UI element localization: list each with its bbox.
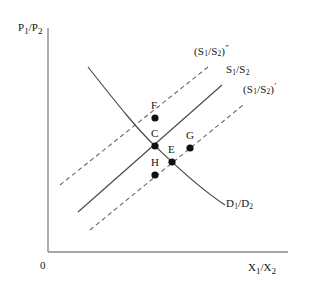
point-F-marker	[151, 114, 158, 121]
point-H-marker	[151, 171, 158, 178]
point-C-marker	[151, 142, 158, 149]
y-axis-label-sub2: 2	[38, 26, 43, 36]
x-axis-label-x: X	[248, 261, 256, 273]
point-label-E: E	[168, 144, 175, 155]
curve-supply-prime	[90, 105, 243, 230]
sb-sub2: 2	[246, 68, 250, 77]
y-axis-label-slash: /P	[29, 21, 38, 33]
x-axis-label: X1/X2	[248, 262, 276, 276]
plot-canvas	[0, 0, 309, 295]
curve-label-demand: D1/D2	[226, 198, 253, 210]
point-label-C: C	[151, 128, 158, 139]
curve-supply-base	[78, 85, 222, 212]
curve-label-supply-base: S1/S2	[226, 64, 249, 76]
point-G-marker	[186, 144, 193, 151]
point-label-H: H	[151, 157, 159, 168]
sp-slash: /S	[257, 83, 267, 95]
x-axis-label-sub2: 2	[272, 266, 277, 276]
sb-slash: /S	[236, 63, 246, 75]
supply-demand-figure: P1/P2 X1/X2 0 (S1/S2)″ S1/S2 (S1/S2)′ D1…	[0, 0, 309, 295]
x-axis-label-slash: /X	[261, 261, 272, 273]
curve-label-supply-prime: (S1/S2)′	[243, 82, 276, 96]
origin-label: 0	[40, 259, 46, 271]
sdp-prime: ″	[225, 43, 229, 53]
point-E-marker	[168, 158, 175, 165]
point-label-F: F	[151, 100, 157, 111]
sdp-slash: /S	[208, 45, 218, 57]
sp-prime: ′	[274, 81, 276, 91]
curve-label-supply-double-prime: (S1/S2)″	[194, 44, 229, 58]
dm-sub2: 2	[249, 202, 253, 211]
sdp-open: (S	[194, 45, 204, 57]
sp-open: (S	[243, 83, 253, 95]
dm-slash: /D	[238, 197, 249, 209]
curve-supply-double-prime	[60, 67, 208, 185]
dm-main: D	[226, 197, 234, 209]
y-axis-label: P1/P2	[18, 22, 42, 36]
point-label-G: G	[186, 130, 194, 141]
